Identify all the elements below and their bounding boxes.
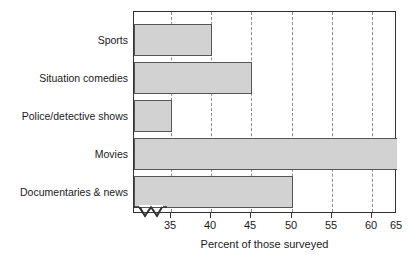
- tick-mark-60: [371, 213, 372, 218]
- bar-police-detective-shows: [134, 100, 172, 132]
- chart-container: Sports Situation comedies Police/detecti…: [0, 0, 411, 260]
- category-label-police-detective-shows: Police/detective shows: [0, 110, 128, 122]
- tick-mark-35: [170, 213, 171, 218]
- x-axis-title: Percent of those surveyed: [133, 238, 396, 250]
- tick-label-50: 50: [276, 219, 306, 231]
- bar-documentaries-news: [134, 176, 293, 208]
- category-label-movies: Movies: [0, 148, 128, 160]
- bar-sports: [134, 24, 212, 56]
- tick-mark-50: [291, 213, 292, 218]
- tick-label-45: 45: [235, 219, 265, 231]
- category-label-documentaries-news: Documentaries & news: [0, 186, 128, 198]
- category-label-sports: Sports: [0, 34, 128, 46]
- tick-label-55: 55: [316, 219, 346, 231]
- tick-mark-45: [250, 213, 251, 218]
- gridline-55: [332, 12, 333, 212]
- tick-mark-55: [331, 213, 332, 218]
- tick-label-65: 65: [381, 219, 411, 231]
- gridline-60: [372, 12, 373, 212]
- plot-area: [133, 11, 396, 213]
- tick-label-35: 35: [155, 219, 185, 231]
- tick-mark-40: [210, 213, 211, 218]
- bar-movies: [134, 138, 397, 170]
- bar-situation-comedies: [134, 62, 252, 94]
- tick-label-40: 40: [195, 219, 225, 231]
- category-label-situation-comedies: Situation comedies: [0, 72, 128, 84]
